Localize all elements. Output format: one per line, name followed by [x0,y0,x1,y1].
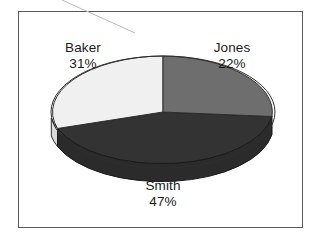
slice-label-baker-name: Baker [47,40,119,56]
slice-label-smith-value: 47% [127,194,199,210]
slice-label-smith-name: Smith [127,178,199,194]
slice-label-jones: Jones 22% [196,40,268,71]
slice-label-jones-value: 22% [196,56,268,72]
slice-label-baker-value: 31% [47,56,119,72]
slice-label-jones-name: Jones [196,40,268,56]
slice-label-smith: Smith 47% [127,178,199,209]
slice-label-baker: Baker 31% [47,40,119,71]
